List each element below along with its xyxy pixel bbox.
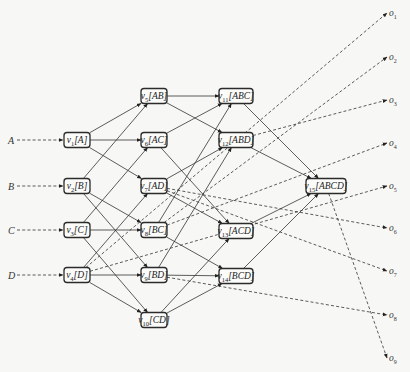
edge-v12-v15 (251, 148, 312, 179)
edge-v6-v13 (161, 148, 229, 224)
output-arrow-o6 (167, 188, 387, 228)
edge-v2-v8 (90, 193, 141, 222)
output-arrow-o9 (329, 194, 387, 359)
node-label: v6[AC] (140, 135, 167, 147)
node-v8: v8[BC] (140, 223, 167, 238)
node-v5: v5[AB] (141, 89, 168, 104)
input-label-D: D (7, 270, 16, 281)
edge-v8-v14 (167, 237, 223, 268)
node-v10: v10[CD] (138, 313, 170, 328)
node-v3: v3[C] (64, 223, 90, 238)
edge-v6-v11 (167, 104, 222, 134)
input-label-A: A (7, 135, 15, 146)
output-label-o6: o6 (389, 223, 397, 235)
output-label-o7: o7 (389, 266, 397, 278)
node-v12: v12[ABD] (218, 133, 255, 148)
node-v13: v13[ACD] (217, 224, 254, 239)
edge-v1-v5 (90, 103, 141, 132)
node-label: v8[BC] (140, 225, 167, 237)
node-v11: v11[ABC] (218, 89, 254, 104)
graph-edges (83, 96, 318, 313)
node-v1: v1[A] (64, 133, 90, 148)
edge-v14-v15 (244, 194, 319, 269)
graph-nodes: v1[A]v2[B]v3[C]v4[D]v5[AB]v6[AC]v7[AD]v8… (64, 89, 348, 328)
input-label-B: B (8, 181, 14, 192)
layered-graph-diagram: ABCD o1o2o3o4o5o6o7o8o9 v1[A]v2[B]v3[C]v… (0, 0, 410, 372)
node-v6: v6[AC] (140, 133, 167, 148)
node-label: v7[AD] (140, 181, 168, 193)
node-label: v9[BD] (140, 270, 168, 282)
node-label: v5[AB] (141, 91, 168, 103)
node-label: v4[D] (66, 270, 88, 282)
output-arrows: o1o2o3o4o5o6o7o8o9 (86, 8, 397, 365)
output-arrow-o7 (167, 191, 387, 271)
output-arrow-o8 (167, 277, 387, 315)
node-v7: v7[AD] (140, 179, 168, 194)
output-label-o1: o1 (389, 8, 397, 20)
output-label-o3: o3 (389, 95, 397, 107)
output-arrow-o3 (253, 100, 387, 136)
node-v14: v14[BCD] (217, 269, 254, 284)
output-label-o5: o5 (389, 181, 397, 193)
output-label-o8: o8 (389, 310, 397, 322)
node-v9: v9[BD] (140, 268, 168, 283)
edge-v1-v7 (90, 148, 142, 179)
edge-v5-v12 (167, 103, 222, 133)
output-label-o4: o4 (389, 138, 397, 150)
output-label-o2: o2 (389, 52, 397, 64)
output-arrow-o2 (164, 57, 387, 223)
node-label: v2[B] (67, 181, 88, 193)
node-label: v1[A] (67, 135, 88, 147)
input-arrows: ABCD (7, 135, 63, 281)
output-label-o9: o9 (389, 353, 397, 365)
edge-v4-v10 (90, 283, 141, 313)
node-label: v3[C] (66, 225, 88, 237)
node-v15: v15[ABCD] (305, 179, 348, 194)
edge-v10-v14 (167, 284, 222, 314)
edge-v9-v14 (167, 275, 219, 276)
node-v2: v2[B] (64, 179, 90, 194)
input-label-C: C (8, 225, 15, 236)
edge-v8-v11 (159, 104, 232, 223)
edge-v11-v15 (244, 104, 319, 179)
edge-v2-v5 (83, 104, 147, 179)
node-v4: v4[D] (64, 268, 90, 283)
edge-v9-v12 (159, 148, 232, 268)
edge-v3-v6 (83, 148, 147, 223)
